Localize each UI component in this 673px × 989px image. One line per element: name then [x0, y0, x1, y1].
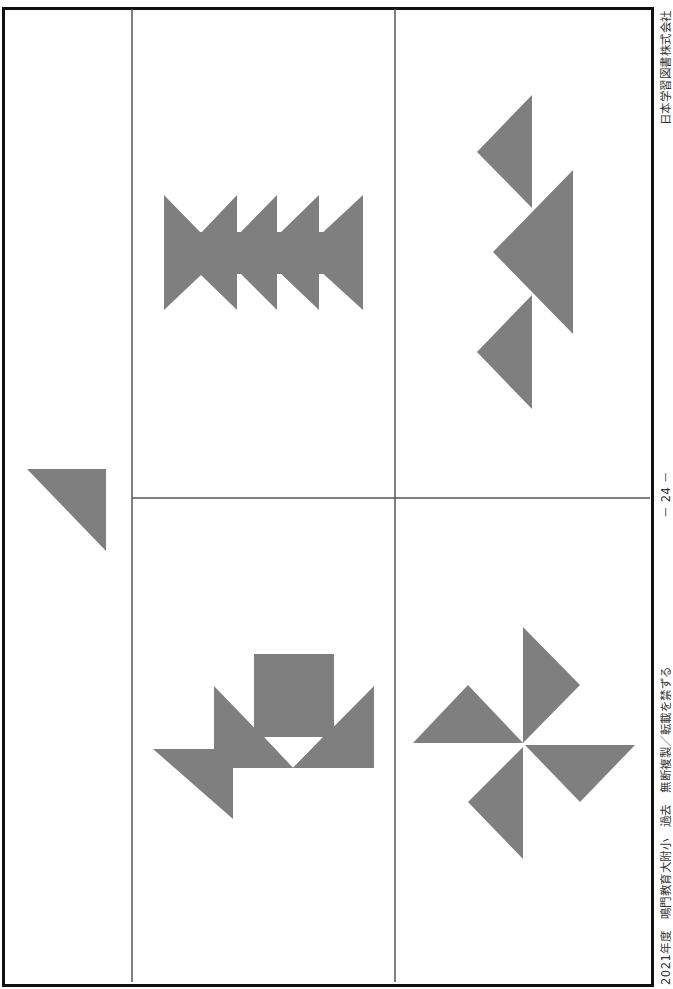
page-number: － 24 －: [657, 471, 673, 518]
publisher-label: 日本学習図書株式会社: [657, 10, 673, 125]
copyright-notice: 2021年度 鳴門教育大附小 過去 無断複製／転載を禁ずる: [657, 666, 673, 985]
sample-triangle-piece: [27, 469, 106, 551]
square-triangles-figure: [153, 654, 374, 819]
grid-lines: [132, 9, 650, 982]
pinwheel-figure: [413, 627, 635, 859]
stacked-triangles-figure: [477, 95, 573, 409]
bowtie-chain-figure: [164, 195, 363, 310]
